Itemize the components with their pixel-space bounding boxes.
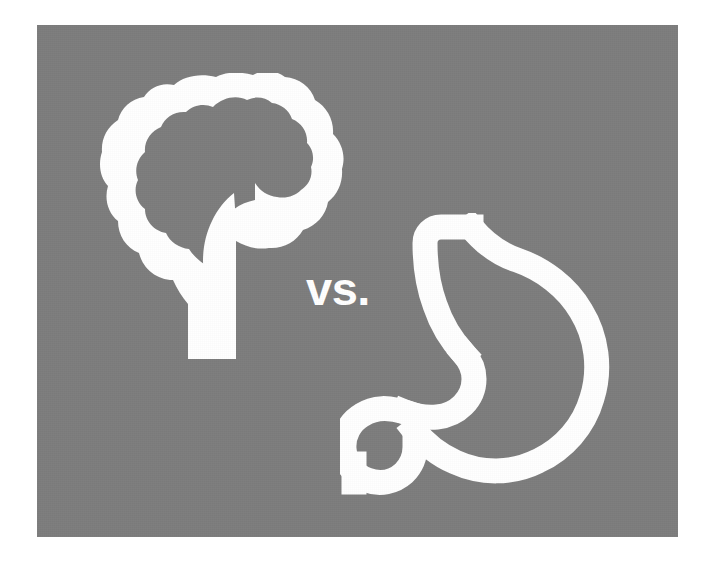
stomach-icon <box>340 213 630 498</box>
vs-separator-label: vs. <box>296 260 380 318</box>
gray-panel: vs. <box>37 25 678 537</box>
brain-icon <box>100 73 345 363</box>
image-canvas: vs. <box>0 0 715 567</box>
